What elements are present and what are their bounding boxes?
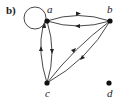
edge-c-to-b (47, 21, 110, 83)
node-label-a: a (47, 3, 53, 15)
node-label-d: d (107, 87, 113, 99)
node-label-c: c (45, 87, 50, 99)
edge-b-to-c (47, 21, 110, 83)
directed-graph: b) a b c d (0, 0, 122, 101)
panel-label: b) (6, 4, 16, 17)
node-a (44, 18, 49, 23)
arrow-b-to-c-icon (80, 55, 85, 60)
edge-c-to-a (41, 21, 47, 83)
edge-a-to-b (47, 16, 110, 22)
arrow-a-to-c-icon (50, 49, 54, 54)
arrow-c-to-a-icon (39, 46, 43, 51)
node-b (107, 18, 112, 23)
arrow-b-to-a-icon (75, 24, 80, 28)
node-d (106, 80, 111, 85)
node-c (44, 80, 49, 85)
node-label-b: b (107, 3, 113, 15)
